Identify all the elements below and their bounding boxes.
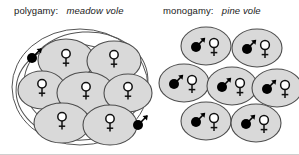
polygamy-panel <box>8 20 160 155</box>
caption-monogamy: monogamy: pine vole <box>163 5 261 16</box>
caption-polygamy-species: meadow vole <box>66 5 123 16</box>
polygamy-svg <box>8 20 160 155</box>
pair-territory <box>252 69 299 107</box>
monogamy-panel <box>158 20 298 155</box>
pair-territory <box>181 102 231 140</box>
monogamy-svg <box>158 20 298 155</box>
caption-polygamy: polygamy: meadow vole <box>14 5 124 16</box>
female-territory <box>83 105 137 145</box>
pair-territory <box>181 27 231 65</box>
caption-monogamy-system: monogamy: <box>163 5 214 16</box>
pair-territory <box>232 29 282 67</box>
figure-container: polygamy: meadow vole monogamy: pine vol… <box>0 0 299 155</box>
female-territories <box>18 39 152 145</box>
caption-polygamy-system: polygamy: <box>14 5 58 16</box>
pair-territory <box>159 64 209 102</box>
pair-territory <box>231 104 281 142</box>
pair-territory <box>207 67 257 105</box>
female-territory <box>34 103 90 143</box>
caption-monogamy-species: pine vole <box>222 5 261 16</box>
pair-territories <box>159 27 299 142</box>
